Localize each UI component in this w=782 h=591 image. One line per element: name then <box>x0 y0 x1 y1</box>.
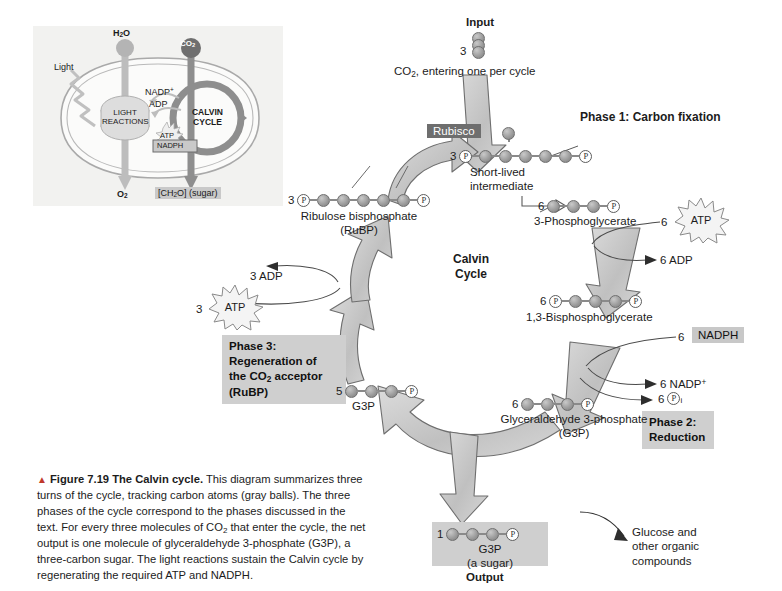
phosphate-icon: P <box>405 385 418 398</box>
intermediate-name-line1: Short-lived <box>470 166 525 178</box>
atp-right-burst: ATP <box>672 196 730 244</box>
phosphate-icon: P <box>549 295 562 308</box>
g3p-out-count: 1 <box>437 528 443 540</box>
phosphate-icon: P <box>579 150 592 163</box>
center-title-line2: Cycle <box>455 267 487 281</box>
molecule-rubp: 3 P P <box>288 192 430 208</box>
carbon-ball <box>479 150 492 163</box>
phosphate-icon: P <box>297 194 310 207</box>
rubp-caption: Ribulose bisphosphate (RuBP) <box>294 210 424 238</box>
carbon-ball <box>609 295 622 308</box>
caption-figure-number: Figure 7.19 <box>50 473 109 485</box>
nadph-count: 6 <box>678 330 684 344</box>
g3p-out-name-line2: (a sugar) <box>467 557 513 569</box>
carbon-ball <box>446 528 459 541</box>
atp-left-label: ATP <box>206 283 264 331</box>
carbon-ball <box>541 398 554 411</box>
molecule-g3p-left: 5 P <box>336 383 418 399</box>
carbon-ball <box>365 385 378 398</box>
g3p-output-caption: G3P (a sugar) <box>432 542 548 570</box>
carbon-ball <box>397 194 410 207</box>
carbon-ball <box>337 194 350 207</box>
output-label: Output <box>466 570 504 584</box>
glucose-note-arrowhead <box>614 528 628 541</box>
g3p-left-caption: G3P <box>352 400 375 412</box>
phase1-label: Phase 1: Carbon fixation <box>580 110 721 125</box>
molecule-g3p-output: 1 P <box>437 526 519 542</box>
carbon-ball <box>567 200 580 213</box>
atp-right-label: ATP <box>672 196 730 244</box>
glucose-note-line1: Glucose and <box>632 526 697 538</box>
carbon-ball <box>519 150 532 163</box>
g3p-left-count: 5 <box>336 385 342 397</box>
carbon-ball <box>559 150 572 163</box>
intermediate-name-line2: intermediate <box>470 180 533 192</box>
caption-triangle-icon: ▲ <box>37 474 47 485</box>
pga-count: 6 <box>538 200 544 212</box>
glucose-note: Glucose and other organic compounds <box>632 525 699 568</box>
phase3-line2: Regeneration of <box>229 355 317 367</box>
rubp-count: 3 <box>288 194 294 206</box>
adp-left-label: 3 ADP <box>250 269 283 283</box>
pi-label: 6 P i <box>658 392 682 405</box>
carbon-ball <box>569 295 582 308</box>
carbon-ball <box>587 200 600 213</box>
adp-right-label: 6 ADP <box>660 253 693 267</box>
atp-left-burst: ATP <box>206 283 264 331</box>
carbon-ball <box>589 295 602 308</box>
center-title-line1: Calvin <box>453 252 489 266</box>
intermediate-caption: Short-lived intermediate <box>470 166 533 194</box>
bpg-caption: 1,3-Bisphosphoglycerate <box>526 311 653 323</box>
glucose-note-line3: compounds <box>632 555 691 567</box>
input-caption: CO2, entering one per cycle <box>394 64 535 80</box>
carbon-ball <box>486 528 499 541</box>
carbon-ball <box>499 150 512 163</box>
pi-subscript: i <box>680 396 682 405</box>
carbon-ball <box>357 194 370 207</box>
g3p-out-name-line1: G3P <box>478 543 501 555</box>
carbon-ball <box>539 150 552 163</box>
phase3-line4: (RuBP) <box>229 386 268 398</box>
input-count: 3 <box>460 44 466 58</box>
carbon-ball <box>521 398 534 411</box>
carbon-ball <box>385 385 398 398</box>
molecule-short-lived-intermediate: 3 P P <box>450 148 592 164</box>
bpg-count: 6 <box>540 295 546 307</box>
carbon-ball <box>561 398 574 411</box>
phosphate-icon: P <box>667 392 680 405</box>
phosphate-icon: P <box>459 150 472 163</box>
caption-figure-title: The Calvin cycle. <box>112 473 203 485</box>
atp-right-count: 6 <box>661 215 667 229</box>
carbon-ball <box>377 194 390 207</box>
molecule-g3p-right: 6 P <box>512 396 594 412</box>
carbon-ball <box>466 528 479 541</box>
phosphate-icon: P <box>607 200 620 213</box>
glucose-note-line2: other organic <box>632 540 699 552</box>
g3p-right-name-line1: Glyceraldehyde 3-phosphate <box>500 413 647 425</box>
rubp-name-line1: Ribulose bisphosphate <box>301 210 417 222</box>
adp-left-curve <box>274 266 338 282</box>
molecule-3-phosphoglycerate: 6 P <box>538 198 620 214</box>
g3p-right-caption: Glyceraldehyde 3-phosphate (G3P) <box>489 413 659 441</box>
input-label: Input <box>466 15 494 29</box>
intermediate-count: 3 <box>450 150 456 162</box>
phase3-line3: the CO2 acceptor <box>229 370 322 382</box>
carbon-ball <box>317 194 330 207</box>
atp-left-count: 3 <box>196 302 202 316</box>
phosphate-icon: P <box>629 295 642 308</box>
phase3-label: Phase 3: Regeneration of the CO2 accepto… <box>222 335 346 404</box>
pga-caption: 3-Phosphoglycerate <box>534 215 636 227</box>
rubp-name-line2: (RuBP) <box>340 224 378 236</box>
intermediate-co2-carbon <box>502 128 515 140</box>
g3p-right-name-line2: (G3P) <box>559 427 590 439</box>
phosphate-icon: P <box>506 528 519 541</box>
rubisco-enzyme-label: Rubisco <box>427 124 481 138</box>
phosphate-icon: P <box>581 398 594 411</box>
nadp-plus-arrowhead <box>645 379 657 389</box>
carbon-ball <box>345 385 358 398</box>
figure-caption: ▲ Figure 7.19 The Calvin cycle. This dia… <box>37 472 367 584</box>
caption-body: This diagram summarizes three turns of t… <box>37 473 365 581</box>
carbon-ball <box>547 200 560 213</box>
adp-right-arrowhead <box>645 255 657 265</box>
phosphate-icon: P <box>417 194 430 207</box>
